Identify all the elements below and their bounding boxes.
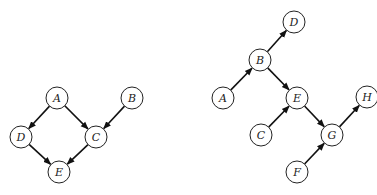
edge-b-to-e	[268, 68, 289, 90]
right-graph: DBAEHCGF	[212, 11, 377, 183]
node-c: C	[85, 126, 107, 148]
node-label: A	[52, 92, 61, 105]
node-label: B	[255, 54, 264, 67]
node-e: E	[48, 161, 70, 183]
node-label: F	[292, 166, 301, 179]
diagram-canvas: ABDCEDBAEHCGF	[0, 0, 377, 195]
edge-a-to-c	[65, 106, 88, 129]
node-label: G	[328, 129, 337, 142]
node-label: A	[218, 92, 227, 105]
edge-e-to-g	[305, 106, 325, 127]
node-label: D	[289, 16, 299, 29]
node-label: E	[292, 92, 301, 105]
node-label: D	[16, 131, 26, 144]
edge-c-to-e	[269, 106, 289, 127]
left-graph: ABDCE	[10, 87, 143, 183]
node-label: C	[257, 129, 266, 142]
node-h: H	[356, 86, 377, 108]
edge-b-to-c	[104, 106, 125, 128]
node-d: D	[283, 11, 305, 33]
edge-d-to-e	[29, 144, 50, 164]
node-label: C	[92, 131, 101, 144]
node-a: A	[46, 87, 68, 109]
edge-b-to-d	[267, 31, 286, 52]
node-g: G	[321, 124, 343, 146]
node-label: E	[54, 166, 63, 179]
edge-a-to-d	[29, 106, 50, 128]
node-b: B	[121, 87, 143, 109]
node-f: F	[286, 161, 308, 183]
node-a: A	[212, 87, 234, 109]
node-d: D	[10, 126, 32, 148]
edge-f-to-g	[305, 143, 325, 164]
edge-c-to-e	[67, 145, 88, 165]
node-e: E	[286, 87, 308, 109]
node-label: B	[127, 92, 136, 105]
edge-g-to-h	[339, 105, 359, 126]
node-c: C	[250, 124, 272, 146]
node-label: H	[361, 91, 372, 104]
node-b: B	[249, 49, 271, 71]
edge-a-to-b	[231, 68, 252, 90]
